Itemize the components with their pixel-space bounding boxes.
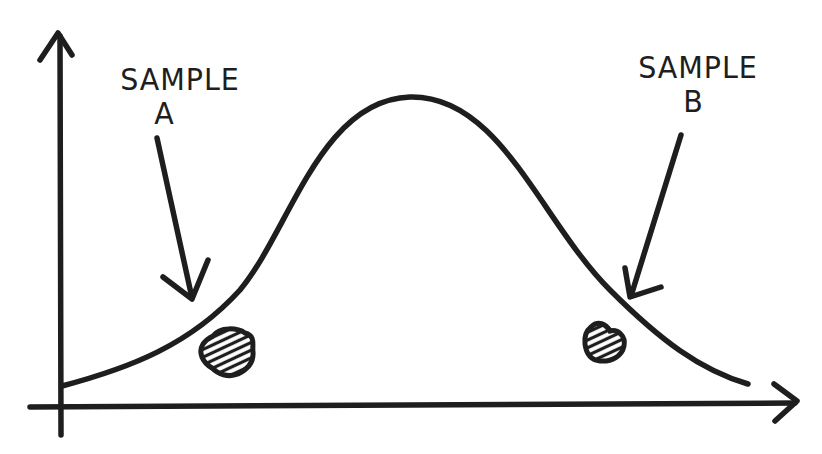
sample-a-label: SAMPLE A (103, 62, 258, 130)
y-axis-arrow (40, 33, 72, 435)
sample-a-label-line1: SAMPLE (103, 62, 258, 96)
sample-a-arrow (157, 138, 208, 299)
sample-b-arrow (625, 135, 681, 297)
x-axis-arrow (30, 384, 797, 421)
sample-b-blob (585, 323, 625, 361)
sample-a-label-line2: A (71, 96, 257, 130)
sample-b-label-line2: B (612, 84, 776, 118)
sample-b-label-line1: SAMPLE (621, 50, 776, 84)
sample-a-blob (201, 329, 253, 376)
sample-b-label: SAMPLE B (621, 50, 776, 118)
